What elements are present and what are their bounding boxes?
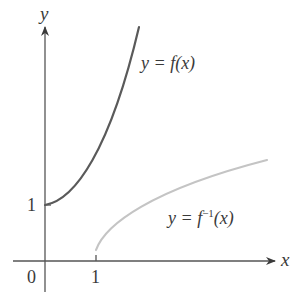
f-label-text: y = f(x) — [141, 53, 195, 73]
x-tick-1-label: 1 — [91, 268, 100, 286]
function-inverse-graph: y x 0 1 1 y = f(x) y = f−1(x) — [0, 0, 299, 305]
y-axis-label: y — [40, 4, 48, 23]
finv-label-sup: −1 — [202, 207, 214, 219]
plot-canvas — [0, 0, 299, 305]
f-inverse-curve-label: y = f−1(x) — [168, 208, 234, 227]
f-curve — [45, 27, 139, 205]
y-tick-1-label: 1 — [27, 196, 36, 214]
x-axis-label: x — [281, 250, 289, 269]
finv-label-main: y = f — [168, 208, 202, 228]
f-curve-label: y = f(x) — [141, 54, 195, 72]
origin-label: 0 — [27, 268, 36, 286]
f-inverse-curve — [96, 160, 267, 250]
finv-label-suffix: (x) — [214, 208, 234, 228]
